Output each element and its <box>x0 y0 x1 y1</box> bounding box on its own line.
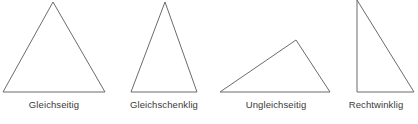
triangle-right-angled <box>357 0 414 92</box>
triangle-label-isosceles: Gleichschenklig <box>112 99 216 111</box>
triangle-label-right-angled: Rechtwinklig <box>334 99 418 111</box>
triangle-label-equilateral: Gleichseitig <box>0 99 108 111</box>
triangle-isosceles <box>131 2 197 92</box>
triangle-label-scalene: Ungleichseitig <box>220 99 332 111</box>
triangle-types-figure: Gleichseitig Gleichschenklig Ungleichsei… <box>0 0 418 124</box>
triangle-equilateral <box>3 2 105 92</box>
triangle-scalene <box>220 40 330 92</box>
